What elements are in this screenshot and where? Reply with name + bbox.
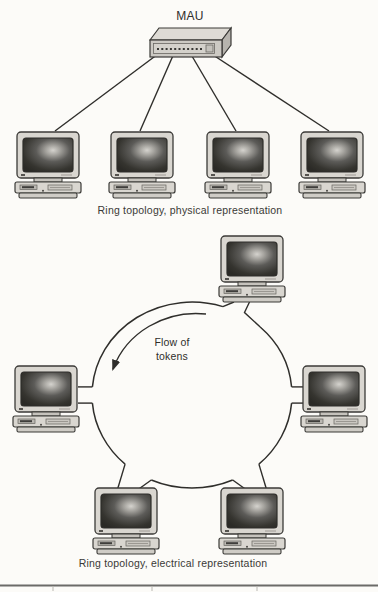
desktop-computer-icon [299,132,365,198]
textbook-figure-page: MAU Flow of tokens Ring topology, physic… [0,0,378,592]
network-topology-diagram [0,0,378,592]
ring [92,302,291,488]
ring-station-stubs [78,302,305,491]
desktop-computer-icon [13,366,79,432]
mau-label: MAU [160,9,220,23]
page-bottom-rule [0,586,378,592]
desktop-computer-icon [219,236,285,302]
desktop-computer-icon [205,132,271,198]
desktop-computer-icon [93,488,159,554]
desktop-computer-icon [109,132,175,198]
mau-cables [55,51,329,131]
token-flow-label-line2: tokens [132,349,212,363]
caption-electrical: Ring topology, electrical representation [0,557,346,569]
caption-physical: Ring topology, physical representation [15,204,365,216]
mau-device [150,28,231,57]
mau-connector [206,45,213,52]
desktop-computer-icon [301,366,367,432]
desktop-computer-icon [15,132,81,198]
token-flow-label: Flow of tokens [132,335,212,363]
desktop-computer-icon [219,488,285,554]
token-flow-label-line1: Flow of [132,335,212,349]
